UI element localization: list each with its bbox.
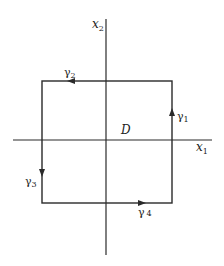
gamma2-label: γ2 (64, 66, 76, 80)
gamma4-label: γ4 (138, 206, 152, 219)
diagram-canvas: x2 x1 D γ1 γ2 γ3 γ4 (0, 0, 224, 266)
gamma1-label: γ1 (177, 110, 189, 124)
gamma1-arrow-up-icon (169, 108, 175, 116)
x2-axis-label: x2 (92, 17, 104, 33)
region-label: D (120, 123, 131, 137)
gamma3-arrow-down-icon (39, 169, 45, 177)
region-boundary (42, 81, 172, 203)
gamma3-label: γ3 (25, 175, 37, 189)
x1-axis-label: x1 (196, 140, 208, 156)
